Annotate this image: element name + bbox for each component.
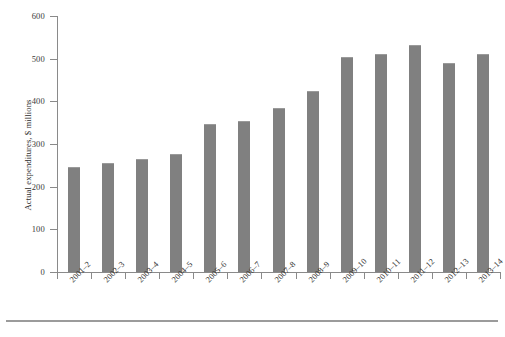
x-tick-6 — [261, 272, 262, 279]
y-tick-100 — [50, 229, 57, 230]
x-tick-7 — [296, 272, 297, 279]
figure-divider-rule — [6, 320, 498, 322]
x-tick-9 — [364, 272, 365, 279]
y-tick-0 — [50, 272, 57, 273]
y-tick-500 — [50, 59, 57, 60]
x-tick-3 — [159, 272, 160, 279]
x-tick-5 — [227, 272, 228, 279]
x-tick-1 — [91, 272, 92, 279]
y-tick-label-400: 400 — [5, 96, 45, 106]
bar-2003–4 — [136, 159, 148, 272]
plot-area — [57, 16, 500, 272]
y-tick-label-0: 0 — [5, 267, 45, 277]
y-tick-label-500: 500 — [5, 54, 45, 64]
y-tick-label-100: 100 — [5, 224, 45, 234]
x-tick-8 — [330, 272, 331, 279]
x-tick-11 — [432, 272, 433, 279]
y-tick-300 — [50, 144, 57, 145]
y-tick-label-300: 300 — [5, 139, 45, 149]
x-tick-4 — [193, 272, 194, 279]
bar-2009–10 — [341, 57, 353, 272]
bar-2011–12 — [409, 45, 421, 272]
figure-caption — [6, 327, 496, 337]
y-tick-600 — [50, 16, 57, 17]
x-tick-2 — [125, 272, 126, 279]
x-tick-0 — [57, 272, 58, 279]
bar-2013–14 — [477, 54, 489, 272]
x-tick-13 — [500, 272, 501, 279]
y-tick-400 — [50, 101, 57, 102]
x-tick-12 — [466, 272, 467, 279]
x-tick-10 — [398, 272, 399, 279]
bar-2005–6 — [204, 124, 216, 272]
y-tick-200 — [50, 187, 57, 188]
bar-2006–7 — [238, 121, 250, 272]
bar-2004–5 — [170, 154, 182, 272]
bar-2010–11 — [375, 54, 387, 272]
y-tick-label-200: 200 — [5, 182, 45, 192]
bar-2002–3 — [102, 163, 114, 272]
bar-2007–8 — [273, 108, 285, 272]
bar-2012–13 — [443, 63, 455, 272]
y-axis-title: Actual expenditures, $ millions — [23, 65, 33, 245]
bar-2001–2 — [68, 167, 80, 272]
y-tick-label-600: 600 — [5, 11, 45, 21]
bar-2008–9 — [307, 91, 319, 272]
